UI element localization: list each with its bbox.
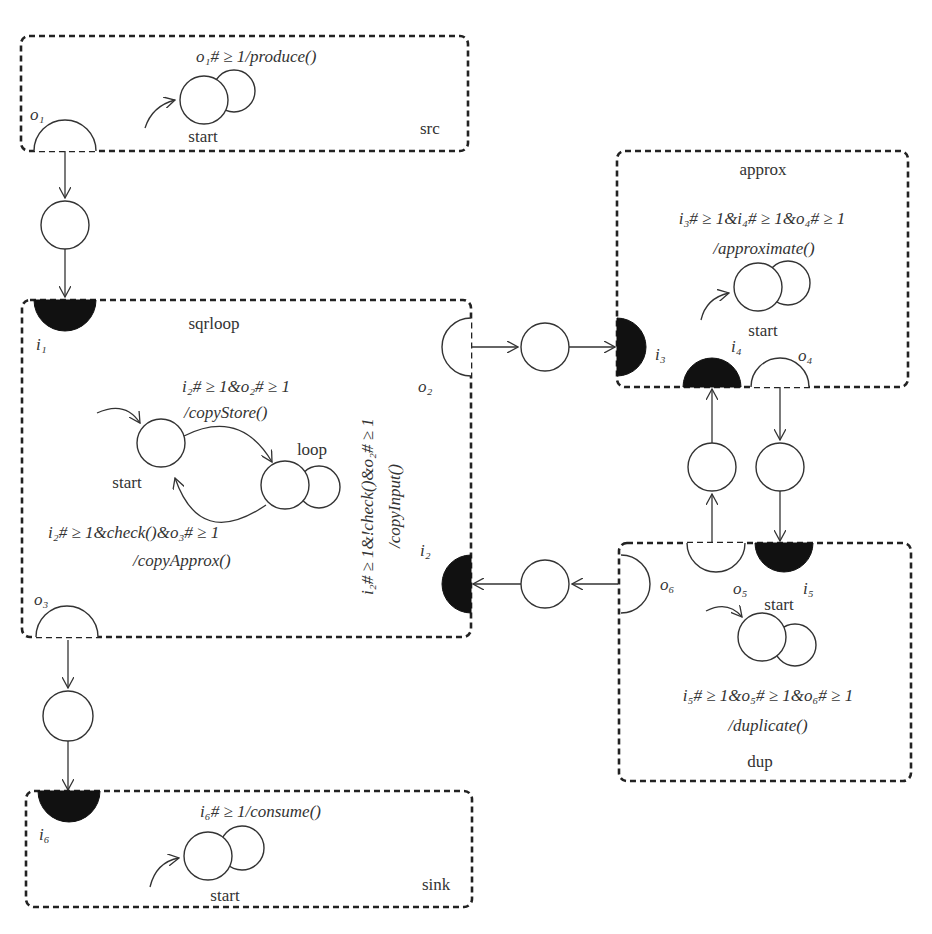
sqrloop-state-start-label: start xyxy=(112,473,142,492)
channel-o1-i1[interactable] xyxy=(41,151,89,297)
sink-name: sink xyxy=(422,875,451,894)
channel-buffer xyxy=(756,443,804,491)
port-i4[interactable] xyxy=(683,358,741,387)
port-o6[interactable] xyxy=(621,555,650,613)
port-o1-label: o₁ xyxy=(30,105,44,124)
channel-o5-i4[interactable] xyxy=(688,389,736,543)
channel-buffer xyxy=(521,323,569,371)
src-name: src xyxy=(420,119,440,138)
component-sink[interactable]: i₆ i₆# ≥ 1/consume() start sink xyxy=(26,791,472,907)
port-i1-label: i₁ xyxy=(36,335,47,354)
dup-state-label: start xyxy=(764,595,794,614)
copyApprox-guard: i₂# ≥ 1&check()&o₃# ≥ 1 xyxy=(48,523,219,542)
dup-state-start[interactable] xyxy=(738,613,786,661)
transition-copyStore[interactable] xyxy=(184,426,272,462)
src-initial-arrow xyxy=(145,100,175,128)
port-i6[interactable] xyxy=(38,791,100,822)
sqrloop-state-loop-label: loop xyxy=(297,440,327,459)
port-o5-label: o₅ xyxy=(733,579,748,598)
dup-guard: i₅# ≥ 1&o₅# ≥ 1&o₆# ≥ 1 xyxy=(683,686,853,705)
copyInput-guard: i₂# ≥ 1&!check()&o₂# ≥ 1 xyxy=(358,418,377,595)
port-o4-label: o₄ xyxy=(798,346,813,365)
transition-copyApprox[interactable] xyxy=(175,478,266,522)
src-state-start[interactable] xyxy=(180,76,228,124)
copyStore-guard: i₂# ≥ 1&o₂# ≥ 1 xyxy=(182,377,290,396)
approx-state-start[interactable] xyxy=(734,263,782,311)
src-state-label: start xyxy=(188,127,218,146)
approx-name: approx xyxy=(739,160,787,179)
port-o1[interactable] xyxy=(34,120,96,151)
port-i2[interactable] xyxy=(442,555,471,613)
diagram-canvas: o₁ o₁# ≥ 1/produce() start src i₁ sqrloo… xyxy=(0,0,932,934)
sqrloop-name: sqrloop xyxy=(189,314,240,333)
component-approx[interactable]: approx i₃# ≥ 1&i₄# ≥ 1&o₄# ≥ 1 /approxim… xyxy=(617,151,908,387)
channel-buffer xyxy=(41,201,89,249)
port-i4-label: i₄ xyxy=(731,337,742,356)
approx-initial-arrow xyxy=(701,293,729,320)
port-o2[interactable] xyxy=(442,318,471,376)
port-o6-label: o₆ xyxy=(660,575,675,594)
component-src[interactable]: o₁ o₁# ≥ 1/produce() start src xyxy=(21,36,468,151)
sink-state-label: start xyxy=(210,886,240,905)
port-i3[interactable] xyxy=(617,318,646,376)
sink-state-start[interactable] xyxy=(184,832,232,880)
port-i3-label: i₃ xyxy=(655,345,666,364)
port-i5-label: i₅ xyxy=(803,579,814,598)
channel-o6-i2[interactable] xyxy=(473,560,618,608)
port-o3[interactable] xyxy=(36,606,98,637)
approx-state-label: start xyxy=(748,321,778,340)
dup-initial-arrow xyxy=(706,607,742,617)
sqrloop-state-start[interactable] xyxy=(137,419,185,467)
src-transition-label: o₁# ≥ 1/produce() xyxy=(196,47,317,66)
dup-name: dup xyxy=(747,752,773,771)
channel-buffer xyxy=(521,560,569,608)
port-o2-label: o₂ xyxy=(418,377,433,396)
sink-transition-label: i₆# ≥ 1/consume() xyxy=(200,802,321,821)
port-o5[interactable] xyxy=(687,543,745,572)
copyStore-action: /copyStore() xyxy=(183,403,268,422)
port-i5[interactable] xyxy=(755,543,813,572)
component-dup[interactable]: o₆ o₅ i₅ start i₅# ≥ 1&o₅# ≥ 1&o₆# ≥ 1 /… xyxy=(619,543,911,781)
approx-action: /approximate() xyxy=(712,239,815,258)
port-i1[interactable] xyxy=(34,300,96,331)
approx-guard: i₃# ≥ 1&i₄# ≥ 1&o₄# ≥ 1 xyxy=(679,209,846,228)
port-i2-label: i₂ xyxy=(420,541,431,560)
channel-o4-i5[interactable] xyxy=(756,387,804,541)
dup-action: /duplicate() xyxy=(727,716,808,735)
copyInput-action: /copyInput() xyxy=(385,464,404,549)
port-o3-label: o₃ xyxy=(34,590,49,609)
channel-buffer xyxy=(43,691,93,741)
channel-buffer xyxy=(688,443,736,491)
copyApprox-action: /copyApprox() xyxy=(132,551,231,570)
sink-initial-arrow xyxy=(150,858,179,887)
sqrloop-initial-arrow xyxy=(97,408,140,423)
port-i6-label: i₆ xyxy=(39,825,50,844)
sqrloop-state-loop[interactable] xyxy=(261,461,309,509)
channel-o2-i3[interactable] xyxy=(471,323,615,371)
component-sqrloop[interactable]: i₁ sqrloop o₂ i₂ o₃ start loop i₂# ≥ 1&o… xyxy=(22,300,471,637)
channel-o3-i6[interactable] xyxy=(43,640,93,790)
